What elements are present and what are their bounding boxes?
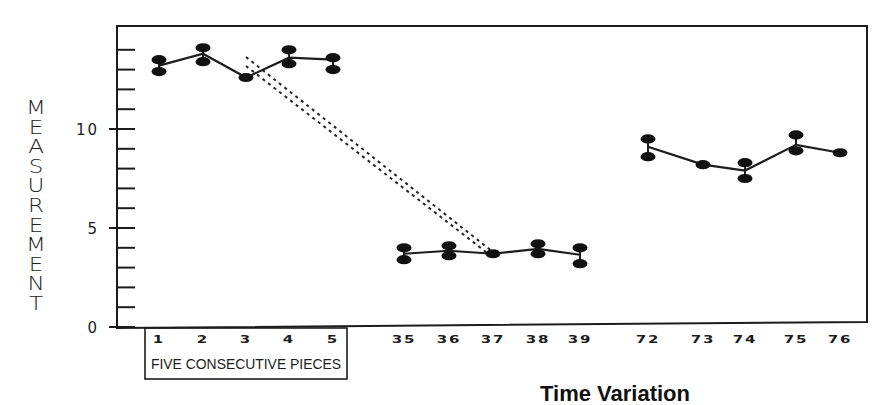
low-marker	[573, 259, 588, 268]
low-marker	[282, 59, 297, 68]
low-marker	[326, 65, 341, 74]
y-tick-label: 10	[76, 121, 99, 139]
single-marker	[239, 73, 254, 82]
x-tick-label: 75	[784, 333, 809, 345]
plot-frame	[117, 26, 867, 328]
high-marker	[573, 243, 588, 252]
high-marker	[196, 43, 211, 52]
figure-caption-partial: Time Variation	[540, 381, 690, 405]
low-marker	[531, 249, 546, 258]
y-axis: 0510	[76, 50, 135, 337]
high-marker	[282, 45, 297, 54]
x-tick-label: 38	[526, 333, 551, 345]
x-tick-label: 37	[481, 333, 506, 345]
low-marker	[789, 146, 804, 155]
low-marker	[738, 174, 753, 183]
x-tick-label: 74	[733, 333, 758, 345]
dashed-connector	[246, 57, 493, 252]
low-marker	[196, 57, 211, 66]
y-title-letter: T	[15, 294, 56, 314]
data-series	[152, 43, 848, 268]
low-marker	[641, 152, 656, 161]
x-tick-label: 39	[568, 333, 593, 345]
single-marker	[833, 148, 848, 157]
y-axis-title: MEASUREMENT	[18, 98, 54, 314]
x-tick-label: 4	[283, 333, 295, 345]
high-marker	[641, 134, 656, 143]
high-marker	[397, 243, 412, 252]
x-tick-label: 3	[240, 333, 252, 345]
x-tick-label: 2	[197, 333, 209, 345]
x-tick-label: 72	[636, 333, 661, 345]
low-marker	[442, 251, 457, 260]
dashed-line-lower	[246, 66, 486, 252]
y-tick-label: 0	[87, 319, 99, 337]
single-marker	[486, 249, 501, 258]
high-marker	[531, 239, 546, 248]
low-marker	[397, 255, 412, 264]
x-tick-label: 36	[437, 333, 462, 345]
y-tick-label: 5	[87, 220, 99, 238]
x-tick-label: 35	[392, 333, 417, 345]
x-axis-labels: 12345FIVE CONSECUTIVE PIECES353637383972…	[145, 328, 852, 379]
high-marker	[152, 55, 167, 64]
high-marker	[326, 53, 341, 62]
group-label: FIVE CONSECUTIVE PIECES	[151, 355, 341, 372]
high-marker	[789, 130, 804, 139]
x-tick-label: 73	[691, 333, 716, 345]
x-tick-label: 5	[327, 333, 339, 345]
frame-border	[117, 26, 867, 328]
x-tick-label: 1	[153, 333, 165, 345]
single-marker	[696, 160, 711, 169]
low-marker	[152, 67, 167, 76]
x-tick-label: 76	[828, 333, 853, 345]
high-marker	[442, 241, 457, 250]
high-marker	[738, 158, 753, 167]
dashed-line-upper	[246, 57, 493, 252]
